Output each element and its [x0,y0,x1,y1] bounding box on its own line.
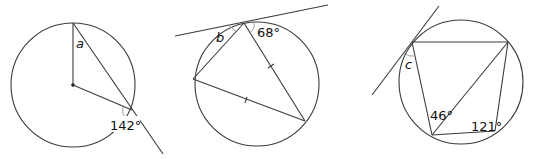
label-68: 68° [257,25,280,40]
radius-lower [73,85,132,110]
label-b: b [216,30,224,45]
figure-c: c 46° 121° [372,6,523,144]
chord-bottom [193,79,305,121]
label-c: c [405,57,412,72]
angle-arc-68 [250,22,254,33]
label-121: 121° [471,119,502,134]
tangent-line-c [372,6,439,95]
label-142: 142° [110,118,141,133]
circle-b [195,22,319,146]
equal-tick-2 [245,97,247,103]
label-a: a [76,36,84,51]
figure-b: b 68° [175,5,328,146]
circle-c [399,20,523,144]
figure-a: a 142° [11,23,163,154]
geometry-figures: a 142° b 68° c 46° 121° [0,0,537,159]
side-left [412,42,432,135]
label-46: 46° [430,108,453,123]
